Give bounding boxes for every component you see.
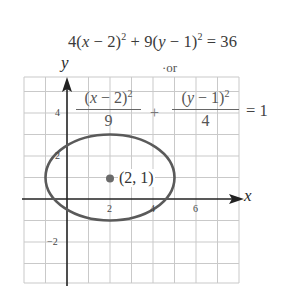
eq-term: 4(	[68, 32, 82, 51]
eq-rhs: = 36	[202, 32, 237, 51]
eq-term: − 1)	[194, 89, 224, 106]
equation-rhs-one: = 1	[246, 101, 268, 121]
fraction-x-term: (x − 2)2 9	[76, 89, 141, 129]
center-point-label: (2, 1)	[118, 169, 155, 187]
eq-term: − 1)	[166, 32, 198, 51]
fraction-numerator: (x − 2)2	[76, 89, 141, 107]
x-axis-label: x	[244, 186, 252, 206]
fraction-bar	[172, 109, 239, 110]
x-tick-label: 2	[107, 203, 112, 214]
eq-var-x: x	[90, 89, 97, 106]
x-tick-label: 6	[193, 203, 198, 214]
center-point	[106, 175, 114, 183]
plus-sign: +	[150, 104, 159, 122]
eq-term: + 9(	[126, 32, 158, 51]
eq-term: − 2)	[89, 32, 121, 51]
fraction-y-term: (y − 1)2 4	[172, 89, 239, 129]
y-tick-label: 2	[55, 150, 60, 161]
ellipse-figure: 4(x − 2)2 + 9(y − 1)2 = 36 ·or (x − 2)2 …	[0, 0, 290, 295]
x-tick-label: 4	[150, 203, 155, 214]
fraction-bar	[76, 109, 141, 110]
eq-exponent: 2	[127, 88, 132, 99]
eq-exponent: 2	[224, 88, 229, 99]
equation-general-form: 4(x − 2)2 + 9(y − 1)2 = 36	[68, 32, 237, 52]
or-connector: ·or	[162, 60, 177, 76]
fraction-numerator: (y − 1)2	[172, 89, 239, 107]
fraction-denominator: 4	[172, 113, 239, 129]
y-tick-label: −2	[47, 236, 58, 247]
eq-term: − 2)	[97, 89, 127, 106]
eq-var-y: y	[187, 89, 194, 106]
y-tick-label: 4	[55, 107, 60, 118]
y-axis-label: y	[61, 53, 69, 73]
eq-var-y: y	[158, 32, 165, 51]
fraction-denominator: 9	[76, 113, 141, 129]
